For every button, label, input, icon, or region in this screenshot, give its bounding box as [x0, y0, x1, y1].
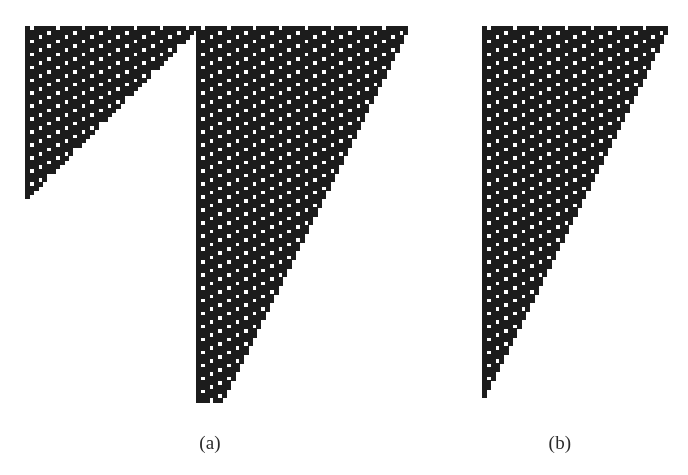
panel-a-caption: (a) — [160, 432, 260, 454]
panel-b-automaton-plot — [0, 0, 688, 475]
figure-root: (a) (b) — [0, 0, 688, 475]
panel-b-caption: (b) — [510, 432, 610, 454]
